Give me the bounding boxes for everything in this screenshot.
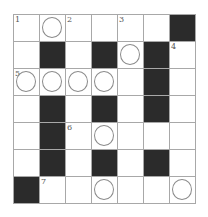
black-square [40, 123, 66, 150]
grid-cell[interactable] [118, 96, 144, 123]
grid-cell[interactable] [118, 177, 144, 204]
grid-cell[interactable]: 4 [170, 42, 196, 69]
grid-cell[interactable] [144, 15, 170, 42]
black-square [144, 69, 170, 96]
circle-icon [120, 44, 140, 65]
black-square [92, 150, 118, 177]
grid-cell[interactable]: 5 [14, 69, 40, 96]
grid-cell[interactable]: 3 [118, 15, 144, 42]
grid-cell[interactable] [170, 177, 196, 204]
circle-icon [94, 179, 114, 200]
grid-cell[interactable] [118, 123, 144, 150]
grid-cell[interactable] [14, 42, 40, 69]
grid-cell[interactable] [118, 150, 144, 177]
black-square [144, 96, 170, 123]
grid-cell[interactable] [14, 150, 40, 177]
grid-cell[interactable] [14, 123, 40, 150]
grid-cell[interactable] [40, 69, 66, 96]
black-square [40, 96, 66, 123]
circle-icon [94, 71, 114, 92]
circle-icon [172, 179, 192, 200]
grid-cell[interactable] [66, 177, 92, 204]
circle-icon [68, 71, 88, 92]
clue-number: 4 [171, 42, 176, 51]
grid-cell[interactable] [66, 42, 92, 69]
black-square [92, 42, 118, 69]
black-square [144, 42, 170, 69]
grid-cell[interactable]: 6 [66, 123, 92, 150]
circle-icon [42, 71, 62, 92]
clue-number: 7 [41, 177, 46, 186]
grid-cell[interactable] [92, 69, 118, 96]
grid-cell[interactable] [66, 96, 92, 123]
black-square [14, 177, 40, 204]
black-square [40, 150, 66, 177]
circle-icon [16, 71, 36, 92]
grid-cell[interactable] [92, 177, 118, 204]
circle-icon [42, 17, 62, 38]
grid-cell[interactable] [144, 123, 170, 150]
grid-cell[interactable] [66, 150, 92, 177]
grid-cell[interactable] [40, 15, 66, 42]
clue-number: 3 [119, 15, 124, 24]
grid-cell[interactable] [170, 69, 196, 96]
grid-cell[interactable] [170, 123, 196, 150]
grid-cell[interactable] [144, 177, 170, 204]
grid-cell[interactable] [92, 15, 118, 42]
grid-cell[interactable] [170, 96, 196, 123]
grid-cell[interactable] [14, 96, 40, 123]
black-square [92, 96, 118, 123]
grid-cell[interactable] [170, 150, 196, 177]
grid-cell[interactable]: 7 [40, 177, 66, 204]
grid-cell[interactable]: 1 [14, 15, 40, 42]
black-square [144, 150, 170, 177]
grid-cell[interactable] [92, 123, 118, 150]
crossword-grid: 1234567 [13, 14, 196, 204]
clue-number: 6 [67, 123, 72, 132]
black-square [40, 42, 66, 69]
black-square [170, 15, 196, 42]
grid-cell[interactable] [118, 42, 144, 69]
grid-cell[interactable] [118, 69, 144, 96]
grid-cell[interactable] [66, 69, 92, 96]
circle-icon [94, 125, 114, 146]
clue-number: 2 [67, 15, 72, 24]
clue-number: 1 [15, 15, 20, 24]
grid-cell[interactable]: 2 [66, 15, 92, 42]
